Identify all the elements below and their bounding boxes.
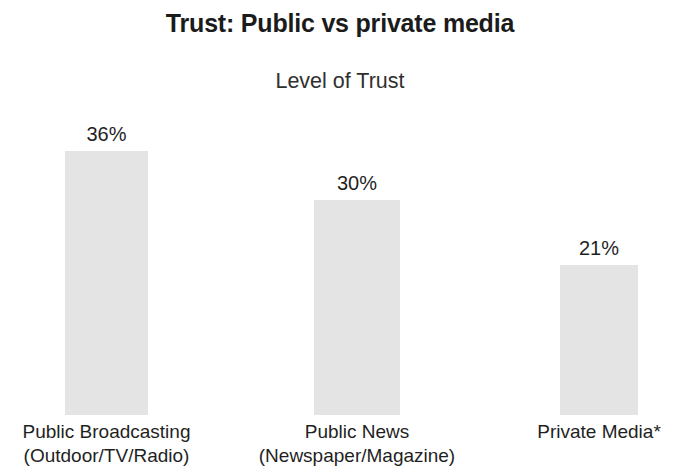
bar-group: 30% Public News (Newspaper/Magazine) — [314, 0, 400, 472]
plot-area: 36% Public Broadcasting (Outdoor/TV/Radi… — [0, 0, 680, 472]
bar-category-label-line2: (Newspaper/Magazine) — [224, 444, 490, 468]
bar-category-label-line1: Private Media* — [470, 420, 680, 444]
bar: 21% — [560, 265, 638, 415]
bar-chart: Trust: Public vs private media Level of … — [0, 0, 680, 472]
bar-category-label: Private Media* — [470, 420, 680, 444]
bar-group: 36% Public Broadcasting (Outdoor/TV/Radi… — [65, 0, 148, 472]
bar: 30% — [314, 200, 400, 415]
bar-group: 21% Private Media* — [560, 0, 638, 472]
bar-category-label: Public Broadcasting (Outdoor/TV/Radio) — [0, 420, 238, 468]
bar-value-label: 21% — [520, 236, 678, 260]
bar-value-label: 30% — [274, 171, 440, 195]
bar-category-label-line1: Public Broadcasting — [0, 420, 238, 444]
bar-category-label-line1: Public News — [224, 420, 490, 444]
bar-category-label: Public News (Newspaper/Magazine) — [224, 420, 490, 468]
bar: 36% — [65, 151, 148, 415]
bar-value-label: 36% — [25, 122, 188, 146]
bar-category-label-line2: (Outdoor/TV/Radio) — [0, 444, 238, 468]
